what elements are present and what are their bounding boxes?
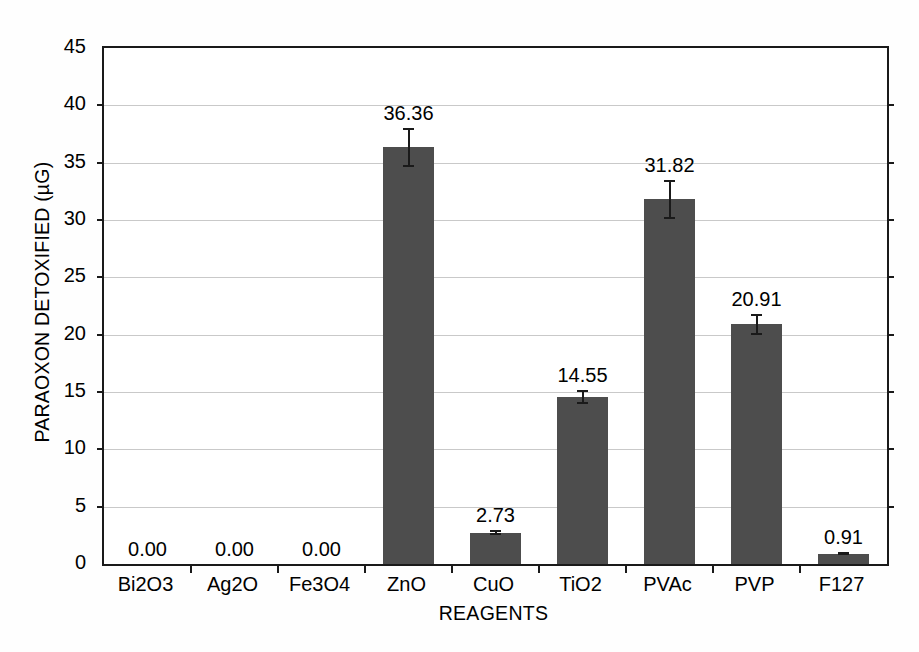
gridline <box>104 163 887 164</box>
y-axis-tick-label: 40 <box>46 93 94 113</box>
error-bar <box>383 128 434 167</box>
bar-value-label: 20.91 <box>697 288 817 310</box>
bar-value-label: 2.73 <box>436 504 556 526</box>
bar <box>644 199 695 564</box>
error-bar <box>470 530 521 535</box>
y-axis-tick-mark <box>887 448 894 450</box>
error-bar <box>557 390 608 404</box>
x-axis-category-label: F127 <box>782 572 902 596</box>
y-axis-tick-label: 25 <box>46 265 94 285</box>
error-bar-cap <box>751 333 762 335</box>
y-axis-tick-mark <box>97 448 104 450</box>
y-axis-tick-mark <box>97 506 104 508</box>
y-axis-tick-mark <box>97 104 104 106</box>
y-axis-tick-mark <box>887 276 894 278</box>
y-axis-tick-label: 10 <box>46 437 94 457</box>
error-bar-line <box>756 314 758 335</box>
y-axis-tick-mark <box>97 276 104 278</box>
gridline <box>104 105 887 106</box>
error-bar <box>644 180 695 219</box>
x-axis-tick-labels: Bi2O3Ag2OFe3O4ZnOCuOTiO2PVAcPVPF127 <box>102 572 885 600</box>
bar-chart-figure: PARAOXON DETOXIFIED (µG) 051015202530354… <box>0 0 919 652</box>
error-bar-cap <box>490 533 501 535</box>
gridline <box>104 277 887 278</box>
bar-value-label: 31.82 <box>610 154 730 176</box>
error-bar <box>818 552 869 555</box>
gridline <box>104 220 887 221</box>
bar <box>470 533 521 564</box>
bar <box>383 147 434 564</box>
y-axis-tick-mark <box>887 391 894 393</box>
error-bar-cap <box>403 165 414 167</box>
y-axis-tick-mark <box>97 334 104 336</box>
y-axis-tick-labels: 051015202530354045 <box>46 46 94 562</box>
y-axis-tick-mark <box>97 162 104 164</box>
y-axis-tick-label: 30 <box>46 208 94 228</box>
error-bar-cap <box>577 402 588 404</box>
bar-value-label: 36.36 <box>349 102 469 124</box>
error-bar-line <box>408 128 410 167</box>
y-axis-tick-mark <box>887 506 894 508</box>
error-bar-cap <box>664 217 675 219</box>
bar <box>731 324 782 564</box>
y-axis-tick-label: 35 <box>46 151 94 171</box>
y-axis-tick-label: 15 <box>46 380 94 400</box>
y-axis-tick-label: 5 <box>46 495 94 515</box>
y-axis-tick-label: 20 <box>46 323 94 343</box>
y-axis-tick-mark <box>97 219 104 221</box>
y-axis-tick-mark <box>887 162 894 164</box>
bar-value-label: 0.91 <box>784 526 904 548</box>
y-axis-tick-label: 45 <box>46 36 94 56</box>
error-bar <box>731 314 782 335</box>
bar-value-label: 0.00 <box>262 538 382 560</box>
plot-area: 0.000.000.0036.362.7314.5531.8220.910.91 <box>102 46 889 566</box>
error-bar-line <box>669 180 671 219</box>
error-bar-cap <box>838 553 849 555</box>
y-axis-tick-mark <box>887 334 894 336</box>
bar-value-label: 14.55 <box>523 364 643 386</box>
bar <box>557 397 608 564</box>
y-axis-tick-mark <box>887 219 894 221</box>
y-axis-tick-mark <box>97 391 104 393</box>
x-axis-title: REAGENTS <box>102 602 885 625</box>
y-axis-tick-mark <box>887 104 894 106</box>
